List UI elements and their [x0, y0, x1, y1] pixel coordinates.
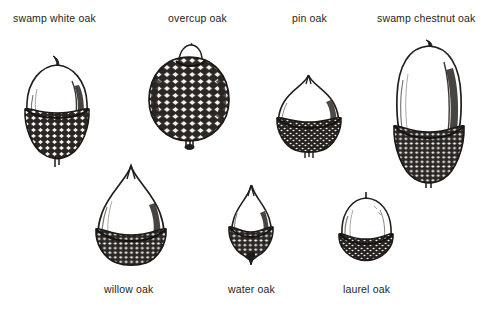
- acorn-figure-pin-oak: [271, 72, 347, 158]
- acorn-figure-overcup-oak: [146, 43, 232, 153]
- acorn-identification-plate: swamp white oak overcup oak pin oak swam…: [0, 0, 490, 315]
- figure-caption-overcup-oak: overcup oak: [168, 12, 227, 25]
- acorn-figure-swamp-white-oak: [16, 55, 98, 167]
- acorn-figure-laurel-oak: [336, 192, 397, 264]
- acorn-figure-swamp-chestnut-oak: [387, 40, 471, 188]
- acorn-cup-water-oak: [229, 227, 273, 265]
- figure-caption-willow-oak: willow oak: [104, 283, 153, 296]
- figure-caption-laurel-oak: laurel oak: [343, 283, 390, 296]
- acorn-cup-pin-oak: [277, 118, 341, 158]
- figure-caption-swamp-white-oak: swamp white oak: [13, 12, 96, 25]
- figure-caption-pin-oak: pin oak: [292, 12, 327, 25]
- acorn-figure-water-oak: [226, 183, 277, 265]
- figure-caption-swamp-chestnut-oak: swamp chestnut oak: [377, 12, 475, 25]
- figure-caption-water-oak: water oak: [228, 283, 275, 296]
- acorn-cup-swamp-chestnut-oak: [394, 126, 464, 188]
- acorn-cup-overcup-oak: [149, 57, 229, 150]
- acorn-cup-swamp-white-oak: [25, 109, 89, 167]
- acorn-figure-willow-oak: [91, 163, 172, 268]
